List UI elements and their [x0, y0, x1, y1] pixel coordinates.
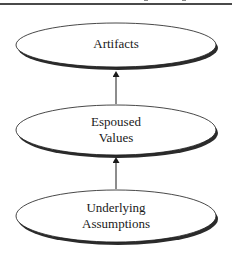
label-line: Assumptions	[16, 216, 216, 232]
label-line: Espoused	[16, 114, 216, 130]
label-line: Artifacts	[16, 36, 216, 52]
label-espoused-values: Espoused Values	[16, 114, 216, 146]
label-underlying-assumptions: Underlying Assumptions	[16, 200, 216, 232]
label-line: Values	[16, 130, 216, 146]
label-line: Underlying	[16, 200, 216, 216]
label-artifacts: Artifacts	[16, 36, 216, 52]
